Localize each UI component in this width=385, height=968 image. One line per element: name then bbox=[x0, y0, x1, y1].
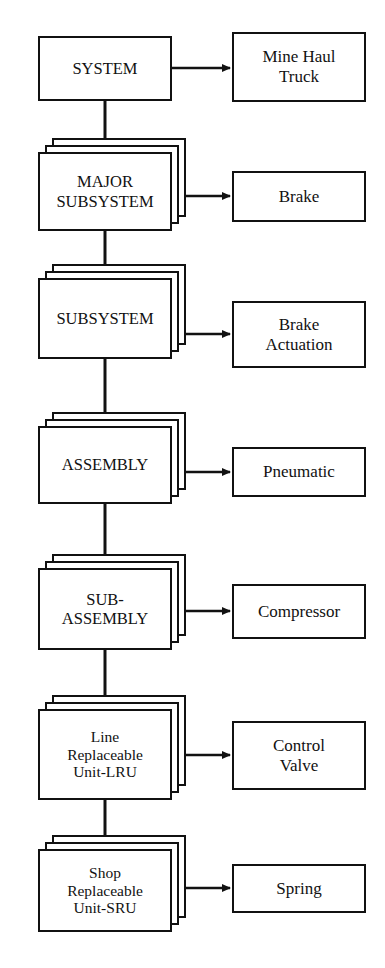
example-label-system: Mine Haul Truck bbox=[234, 47, 364, 86]
example-box-major-subsystem[interactable]: Brake bbox=[232, 171, 366, 222]
level-box-sub-assembly[interactable]: SUB- ASSEMBLY bbox=[38, 568, 172, 650]
level-box-system[interactable]: SYSTEM bbox=[38, 36, 172, 101]
example-box-assembly[interactable]: Pneumatic bbox=[232, 447, 366, 497]
level-box-lru[interactable]: Line Replaceable Unit-LRU bbox=[38, 709, 172, 800]
level-label-sru: Shop Replaceable Unit-SRU bbox=[40, 864, 170, 918]
level-box-major-subsystem[interactable]: MAJOR SUBSYSTEM bbox=[38, 152, 172, 231]
level-label-major-subsystem: MAJOR SUBSYSTEM bbox=[40, 172, 170, 210]
example-label-subsystem: Brake Actuation bbox=[234, 315, 364, 354]
example-label-major-subsystem: Brake bbox=[234, 187, 364, 207]
example-box-system[interactable]: Mine Haul Truck bbox=[232, 32, 366, 102]
example-label-sru: Spring bbox=[234, 879, 364, 899]
level-label-lru: Line Replaceable Unit-LRU bbox=[40, 728, 170, 782]
level-label-system: SYSTEM bbox=[40, 59, 170, 78]
level-label-sub-assembly: SUB- ASSEMBLY bbox=[40, 590, 170, 628]
level-label-assembly: ASSEMBLY bbox=[40, 455, 170, 474]
example-box-lru[interactable]: Control Valve bbox=[232, 721, 366, 790]
indenture-level-diagram: SYSTEM Mine Haul Truck MAJOR SUBSYSTEM B… bbox=[0, 0, 385, 968]
level-box-assembly[interactable]: ASSEMBLY bbox=[38, 426, 172, 504]
example-box-sru[interactable]: Spring bbox=[232, 864, 366, 913]
example-label-lru: Control Valve bbox=[234, 736, 364, 775]
level-box-sru[interactable]: Shop Replaceable Unit-SRU bbox=[38, 849, 172, 932]
example-box-sub-assembly[interactable]: Compressor bbox=[232, 584, 366, 639]
level-box-subsystem[interactable]: SUBSYSTEM bbox=[38, 278, 172, 359]
level-label-subsystem: SUBSYSTEM bbox=[40, 309, 170, 328]
example-box-subsystem[interactable]: Brake Actuation bbox=[232, 301, 366, 368]
example-label-assembly: Pneumatic bbox=[234, 462, 364, 482]
example-label-sub-assembly: Compressor bbox=[234, 602, 364, 622]
